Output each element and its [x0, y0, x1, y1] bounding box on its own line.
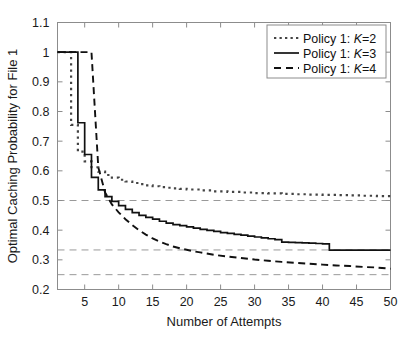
- y-tick-label-0.9: 0.9: [32, 75, 49, 89]
- x-tick-label-45: 45: [350, 295, 364, 309]
- x-tick-label-5: 5: [81, 295, 88, 309]
- y-axis-title: Optimal Caching Probability for File 1: [5, 49, 20, 264]
- y-tick-label-0.2: 0.2: [32, 283, 49, 297]
- x-tick-label-30: 30: [248, 295, 262, 309]
- x-tick-label-25: 25: [214, 295, 228, 309]
- x-tick-label-35: 35: [282, 295, 296, 309]
- chart-figure: 5101520253035404550 0.20.30.40.50.60.70.…: [0, 0, 417, 342]
- y-tick-label-0.8: 0.8: [32, 105, 49, 119]
- legend-label-3[interactable]: Policy 1: K=4: [303, 62, 376, 76]
- legend-label-2[interactable]: Policy 1: K=3: [303, 47, 376, 61]
- legend-label-1[interactable]: Policy 1: K=2: [303, 32, 376, 46]
- chart-legend[interactable]: Policy 1: K=2Policy 1: K=3Policy 1: K=4: [267, 25, 386, 78]
- y-tick-label-0.5: 0.5: [32, 194, 49, 208]
- chart-canvas: 5101520253035404550 0.20.30.40.50.60.70.…: [0, 0, 417, 342]
- x-tick-label-40: 40: [316, 295, 330, 309]
- x-axis-title: Number of Attempts: [167, 314, 282, 329]
- y-tick-label-1.1: 1.1: [32, 16, 49, 30]
- x-tick-label-15: 15: [146, 295, 160, 309]
- x-tick-label-50: 50: [384, 295, 398, 309]
- y-tick-label-0.6: 0.6: [32, 164, 49, 178]
- y-tick-label-0.3: 0.3: [32, 253, 49, 267]
- x-tick-label-20: 20: [180, 295, 194, 309]
- y-tick-label-1: 1: [43, 46, 50, 60]
- x-tick-label-10: 10: [112, 295, 126, 309]
- y-tick-label-0.7: 0.7: [32, 135, 49, 149]
- y-tick-label-0.4: 0.4: [32, 224, 49, 238]
